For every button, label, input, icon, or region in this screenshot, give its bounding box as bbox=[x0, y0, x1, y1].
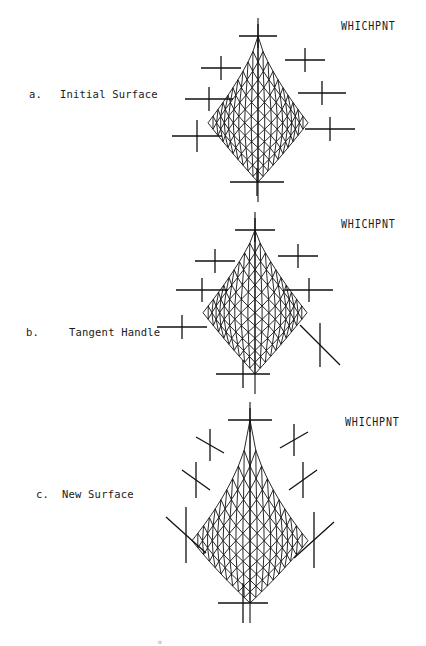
control-handles-group bbox=[157, 24, 355, 623]
wireframe-surfaces bbox=[0, 0, 426, 646]
